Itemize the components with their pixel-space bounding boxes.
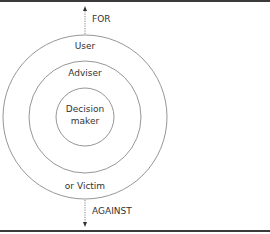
decision-label: Decision xyxy=(66,104,104,114)
against-label: AGAINST xyxy=(92,206,132,216)
maker-label: maker xyxy=(71,116,100,126)
bottom-border xyxy=(0,230,270,232)
for-label: FOR xyxy=(92,14,111,24)
concentric-circles-diagram: FOR User Adviser Decision maker or Victi… xyxy=(0,0,270,234)
victim-label: or Victim xyxy=(65,181,105,191)
arrow-down-icon xyxy=(83,200,87,227)
arrow-up-icon xyxy=(83,6,87,34)
adviser-label: Adviser xyxy=(68,68,102,78)
diagram-frame: FOR User Adviser Decision maker or Victi… xyxy=(0,0,270,234)
user-label: User xyxy=(75,41,96,51)
